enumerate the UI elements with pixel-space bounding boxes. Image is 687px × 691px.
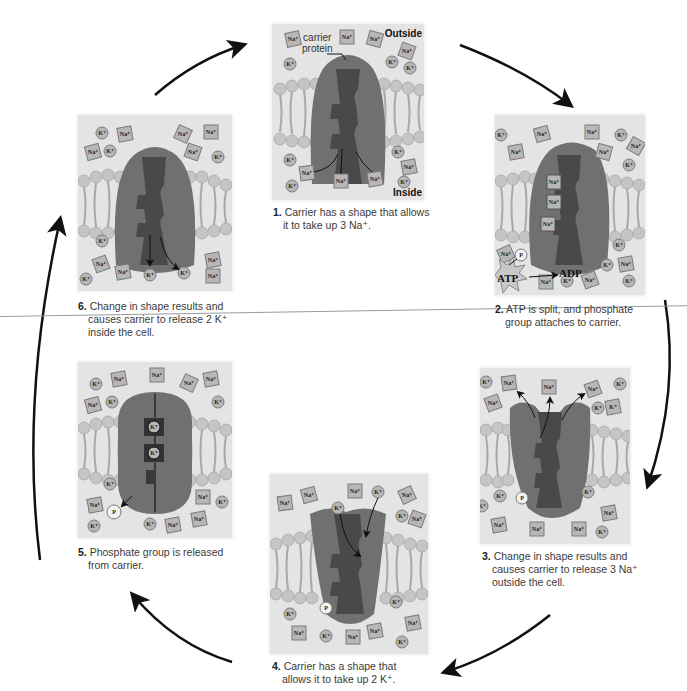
svg-text:Na⁺: Na⁺ [184,380,194,386]
svg-text:K⁺: K⁺ [146,521,154,527]
caption-step-3: 3. Change in shape results and causes ca… [482,550,662,589]
caption-step-2: 2. ATP is split, and phosphate group att… [495,303,670,329]
svg-text:K⁺: K⁺ [625,162,633,168]
svg-text:Na⁺: Na⁺ [120,131,130,137]
svg-text:Na⁺: Na⁺ [402,492,412,498]
svg-text:K⁺: K⁺ [388,59,396,65]
svg-text:Na⁺: Na⁺ [488,400,498,406]
svg-text:Na⁺: Na⁺ [501,251,511,257]
svg-text:Na⁺: Na⁺ [178,131,188,137]
svg-text:K⁺: K⁺ [98,130,106,136]
arrow-5-to-6-icon [33,220,60,560]
svg-text:K⁺: K⁺ [150,424,158,430]
svg-text:Na⁺: Na⁺ [404,164,414,170]
carrier-protein-illustration: K⁺ Na⁺ Na⁺ Na⁺ Na⁺ K⁺ K⁺ K⁺ K⁺ P K⁺ K⁺ N… [480,368,630,544]
svg-text:K⁺: K⁺ [146,272,154,278]
arrow-6-to-1-icon [155,45,243,95]
svg-text:K⁺: K⁺ [82,276,90,282]
svg-text:K⁺: K⁺ [594,405,602,411]
svg-text:P: P [520,495,524,501]
step-number: 6. [78,300,87,312]
svg-text:Na⁺: Na⁺ [544,384,554,390]
svg-text:K⁺: K⁺ [497,132,505,138]
step-number: 3. [482,550,491,562]
svg-text:K⁺: K⁺ [92,381,100,387]
svg-text:Na⁺: Na⁺ [152,372,162,378]
svg-text:Na⁺: Na⁺ [408,620,418,626]
svg-text:Na⁺: Na⁺ [587,129,597,135]
step-number: 1. [273,206,282,218]
svg-text:K⁺: K⁺ [150,450,158,456]
svg-text:K⁺: K⁺ [214,154,222,160]
panel-step-6: K⁺ Na⁺ Na⁺ K⁺ Na⁺ Na⁺ Na⁺ K⁺ K⁺ Na⁺ K⁺ N… [78,115,232,291]
svg-text:Na⁺: Na⁺ [621,261,631,267]
atp-label: ATP [497,272,518,284]
svg-text:Na⁺: Na⁺ [402,48,412,54]
svg-text:K⁺: K⁺ [480,503,486,509]
svg-text:Na⁺: Na⁺ [342,34,352,40]
svg-text:Na⁺: Na⁺ [494,522,504,528]
panel-step-4: Na⁺ Na⁺ Na⁺ K⁺ Na⁺ K⁺ Na⁺ K⁺ P K⁺ Na⁺ K⁺… [270,474,428,654]
svg-text:K⁺: K⁺ [288,183,296,189]
svg-text:Na⁺: Na⁺ [302,170,312,176]
svg-text:Na⁺: Na⁺ [168,522,178,528]
svg-text:Na⁺: Na⁺ [631,143,641,149]
svg-text:P: P [519,252,523,258]
svg-text:K⁺: K⁺ [108,399,116,405]
svg-text:Na⁺: Na⁺ [194,516,204,522]
panel-step-3: K⁺ Na⁺ Na⁺ Na⁺ Na⁺ K⁺ K⁺ K⁺ K⁺ P K⁺ K⁺ N… [480,368,630,544]
panel-step-5: K⁺ K⁺ K⁺ Na⁺ Na⁺ K⁺ Na⁺ Na⁺ Na⁺ K⁺ K⁺ Na… [78,362,232,538]
caption-step-5: 5. Phosphate group is released from carr… [78,546,248,572]
svg-text:K⁺: K⁺ [616,381,624,387]
svg-text:Na⁺: Na⁺ [208,257,218,263]
step-number: 2. [495,303,504,315]
svg-text:K⁺: K⁺ [625,278,633,284]
svg-text:Na⁺: Na⁺ [511,149,521,155]
svg-text:K⁺: K⁺ [286,157,294,163]
svg-text:Na⁺: Na⁺ [198,494,208,500]
carrier-protein-illustration: Na⁺ Na⁺ Na⁺ Na⁺ K⁺ K⁺ K⁺ K⁺ K⁺ K⁺ Na⁺ Na… [272,24,424,200]
svg-text:K⁺: K⁺ [214,399,222,405]
svg-text:K⁺: K⁺ [400,179,408,185]
adp-label: ADP [559,267,582,279]
svg-text:Na⁺: Na⁺ [88,402,98,408]
svg-text:K⁺: K⁺ [603,262,611,268]
svg-text:Na⁺: Na⁺ [370,176,380,182]
panel-step-2: Na⁺ Na⁺ Na⁺ K⁺ Na⁺ Na⁺ Na⁺ Na⁺ K⁺ Na⁺ K⁺… [495,115,645,295]
arrow-3-to-4-icon [445,615,550,672]
svg-text:K⁺: K⁺ [90,523,98,529]
carrier-protein-illustration: K⁺ K⁺ K⁺ Na⁺ Na⁺ K⁺ Na⁺ Na⁺ Na⁺ K⁺ K⁺ Na… [78,362,232,538]
svg-text:Na⁺: Na⁺ [336,178,346,184]
svg-text:Na⁺: Na⁺ [588,386,598,392]
svg-text:Na⁺: Na⁺ [532,526,542,532]
inside-label: Inside [393,187,422,198]
svg-text:K⁺: K⁺ [406,65,414,71]
svg-text:Na⁺: Na⁺ [599,149,609,155]
caption-step-6: 6. Change in shape results and causes ca… [78,300,253,339]
arrow-1-to-2-icon [460,45,570,105]
svg-text:Na⁺: Na⁺ [206,129,216,135]
svg-text:K⁺: K⁺ [322,633,330,639]
svg-text:Na⁺: Na⁺ [541,279,551,285]
svg-text:P: P [112,509,116,515]
svg-text:Na⁺: Na⁺ [537,131,547,137]
svg-text:Na⁺: Na⁺ [88,149,98,155]
svg-text:Na⁺: Na⁺ [604,510,614,516]
svg-text:K⁺: K⁺ [398,513,406,519]
svg-text:K⁺: K⁺ [106,148,114,154]
panel-step-1: Na⁺ Na⁺ Na⁺ Na⁺ K⁺ K⁺ K⁺ K⁺ K⁺ K⁺ Na⁺ Na… [272,24,424,200]
svg-text:K⁺: K⁺ [584,489,592,495]
svg-text:K⁺: K⁺ [286,61,294,67]
caption-step-1: 1. Carrier has a shape that allows it to… [273,206,443,232]
arrow-4-to-5-icon [133,595,232,662]
svg-text:K⁺: K⁺ [398,639,406,645]
svg-text:K⁺: K⁺ [286,611,294,617]
svg-text:Na⁺: Na⁺ [350,488,360,494]
svg-text:Na⁺: Na⁺ [304,492,314,498]
carrier-protein-illustration: Na⁺ Na⁺ Na⁺ K⁺ Na⁺ K⁺ Na⁺ K⁺ P K⁺ Na⁺ K⁺… [270,474,428,654]
svg-text:Na⁺: Na⁺ [114,376,124,382]
svg-text:Na⁺: Na⁺ [370,36,380,42]
svg-text:Na⁺: Na⁺ [206,376,216,382]
svg-text:K⁺: K⁺ [617,132,625,138]
svg-text:Na⁺: Na⁺ [370,628,380,634]
